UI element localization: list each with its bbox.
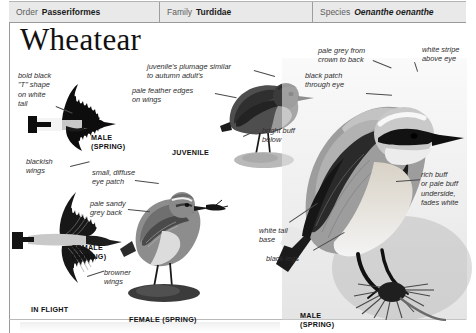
taxonomy-key-order: Order — [16, 7, 38, 17]
taxonomy-value-species: Oenanthe oenanthe — [354, 7, 433, 17]
annotation-eye-patch: small, diffuse eye patch — [92, 168, 158, 187]
annotation-pale-sandy-back: pale sandy grey back — [90, 199, 146, 218]
annotation-white-stripe-above-eye: white stripe above eye — [422, 45, 476, 64]
taxonomy-value-family: Turdidae — [196, 7, 231, 17]
taxonomy-key-family: Family — [167, 7, 192, 17]
caption-juvenile: JUVENILE — [172, 148, 209, 157]
annotation-juvenile-plumage: juvenile's plumage similar to autumn adu… — [147, 62, 259, 81]
page-title: Wheatear — [20, 24, 141, 55]
annotation-browner-wings: browner wings — [104, 268, 158, 287]
taxonomy-cell-order: Order Passeriformes — [9, 2, 159, 22]
taxonomy-key-species: Species — [320, 7, 350, 17]
caption-male-spring-perched: MALE (SPRING) — [300, 311, 334, 329]
caption-female-spring-in-flight: FEMALE (SPRING) — [72, 243, 106, 261]
annotation-black-patch-through-eye: black patch through eye — [305, 71, 371, 90]
annotation-white-tail-base: white tail base — [259, 226, 311, 245]
taxonomy-value-order: Passeriformes — [42, 7, 101, 17]
page-body-text-fade — [20, 322, 280, 332]
annotation-bright-buff-below: bright buff below — [262, 126, 320, 145]
annotation-tail-t-shape: bold black "T" shape on white tail — [18, 71, 80, 109]
taxonomy-cell-family: Family Turdidae — [159, 2, 312, 22]
annotation-pale-feather-edges: pale feather edges on wings — [132, 86, 222, 105]
caption-male-spring-in-flight-upper: MALE (SPRING) — [91, 133, 125, 151]
annotation-blackish-wings: blackish wings — [26, 157, 78, 176]
annotation-black-legs: black legs — [266, 254, 318, 263]
taxonomy-header: Order Passeriformes Family Turdidae Spec… — [9, 1, 466, 23]
taxonomy-cell-species: Species Oenanthe oenanthe — [312, 2, 466, 22]
annotation-pale-grey-crown: pale grey from crown to back — [318, 46, 396, 65]
annotation-rich-buff-underside: rich buff or pale buff underside, fades … — [421, 170, 476, 208]
caption-in-flight: IN FLIGHT — [31, 305, 68, 314]
